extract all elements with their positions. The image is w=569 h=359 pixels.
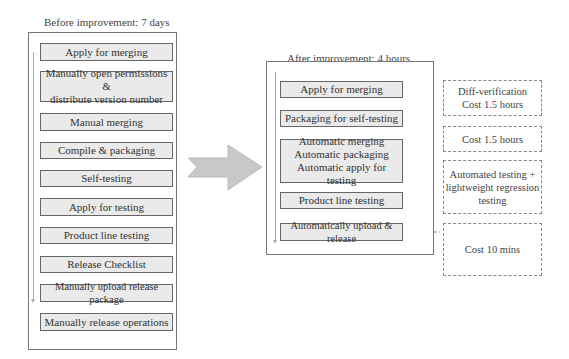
after-step-apply-merging: Apply for merging <box>280 81 403 98</box>
note-automated-testing: Automated testing + lightweight regressi… <box>443 160 542 214</box>
after-step-packaging-self-testing: Packaging for self-testing <box>280 110 403 127</box>
note-cost-1-5-hours: Cost 1.5 hours <box>443 126 542 152</box>
after-step-product-line-testing: Product line testing <box>280 192 403 209</box>
after-flow-line <box>275 72 276 241</box>
note-diff-verification: Diff-verification Cost 1.5 hours <box>443 80 542 116</box>
after-step-upload-release: Automatically upload & release <box>280 223 403 241</box>
note-cost-10-mins: Cost 10 mins <box>443 223 542 276</box>
right-arrow-icon <box>188 145 262 190</box>
after-step-automatic-ops: Automatic merging Automatic packaging Au… <box>280 139 403 183</box>
after-flow-arrowhead-icon <box>273 240 277 244</box>
